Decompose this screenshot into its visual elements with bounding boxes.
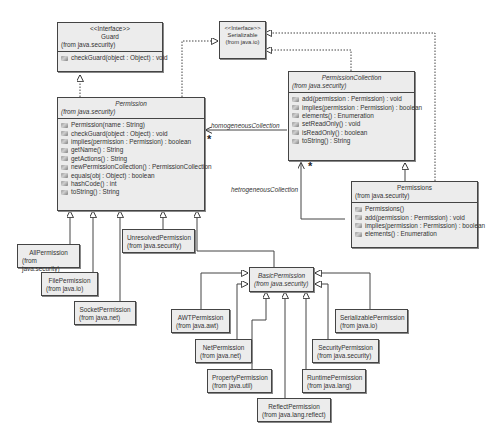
- stereotype: <<Interface>>: [222, 25, 263, 32]
- operation: toString() : String: [292, 137, 411, 145]
- operation: newPermissionCollection() : PermissionCo…: [61, 163, 201, 171]
- operation: Permissions(): [355, 205, 474, 213]
- package-label: (from java.io): [340, 322, 403, 330]
- operation: getName() : String: [61, 146, 201, 154]
- class-property-permission[interactable]: PropertyPermission (from java.util): [207, 369, 272, 393]
- operation: checkGuard(object : Object) : void: [61, 129, 201, 137]
- class-security-permission[interactable]: SecurityPermission (from java.security): [312, 339, 379, 363]
- method-icon: [292, 139, 299, 144]
- package-label: (from java.security): [292, 82, 411, 90]
- multiplicity-heterogeneous: *: [308, 160, 312, 172]
- class-reflect-permission[interactable]: ReflectPermission (from java.lang.reflec…: [257, 398, 331, 422]
- class-unresolved-permission[interactable]: UnresolvedPermission (from java.security…: [122, 229, 195, 253]
- class-name: BasicPermission: [254, 272, 309, 280]
- package-label: (from java.util): [212, 382, 267, 390]
- class-name: PermissionCollection: [292, 74, 411, 82]
- method-icon: [355, 232, 362, 237]
- method-icon: [61, 173, 68, 178]
- method-icon: [292, 105, 299, 110]
- class-name: UnresolvedPermission: [127, 234, 190, 242]
- method-icon: [61, 148, 68, 153]
- method-icon: [61, 181, 68, 186]
- package-label: (from java.security): [61, 108, 201, 116]
- class-name: FilePermission: [46, 277, 93, 285]
- method-icon: [292, 122, 299, 127]
- method-icon: [292, 113, 299, 118]
- operations-list: checkGuard(object : Object) : void: [58, 51, 162, 64]
- class-name: Serializable: [222, 32, 263, 39]
- operation: getActions() : String: [61, 155, 201, 163]
- method-icon: [61, 56, 68, 61]
- class-name: Permission: [61, 100, 201, 108]
- method-icon: [355, 215, 362, 220]
- class-permission-collection[interactable]: PermissionCollection (from java.security…: [288, 71, 415, 161]
- class-name: PropertyPermission: [212, 374, 267, 382]
- package-label: (from java.security): [22, 257, 75, 273]
- package-label: (from java.lang.reflect): [262, 411, 326, 419]
- class-name: RuntimePermission: [307, 374, 361, 382]
- multiplicity-homogeneous: *: [207, 133, 211, 145]
- realization-permission-serializable: [182, 41, 218, 97]
- generalization-serializablepermission: [315, 273, 370, 309]
- operation: setReadOnly() : void: [292, 120, 411, 128]
- method-icon: [292, 97, 299, 102]
- operations-list: Permission(name : String) checkGuard(obj…: [58, 118, 204, 199]
- realization-permcollection-serializable: [265, 50, 351, 71]
- class-basic-permission[interactable]: BasicPermission (from java.security): [249, 267, 314, 292]
- operation: elements() : Enumeration: [355, 230, 474, 238]
- operations-list: add(permission : Permission) : void impl…: [289, 92, 414, 147]
- method-icon: [355, 207, 362, 212]
- package-label: (from java.security): [317, 352, 374, 360]
- class-name: ReflectPermission: [262, 403, 326, 411]
- operation: hashCode() : int: [61, 180, 201, 188]
- association-label-heterogeneous: hetrogeneousCollection: [231, 186, 298, 193]
- operation: add(permission : Permission) : void: [355, 213, 474, 221]
- package-label: (from java.io): [46, 285, 93, 293]
- class-socket-permission[interactable]: SocketPermission (from java.net): [74, 301, 136, 325]
- package-label: (from java.lang): [307, 382, 361, 390]
- class-all-permission[interactable]: AllPermission (from java.security): [17, 244, 80, 268]
- operation: implies(permission : Permission) : boole…: [355, 222, 474, 230]
- method-icon: [61, 165, 68, 170]
- operation: toString() : String: [61, 188, 201, 196]
- method-icon: [61, 190, 68, 195]
- class-name: SerializablePermission: [340, 314, 403, 322]
- class-awt-permission[interactable]: AWTPermission (from java.awt): [171, 309, 230, 333]
- generalization-awtpermission: [201, 273, 248, 309]
- class-permission[interactable]: Permission (from java.security) Permissi…: [57, 97, 205, 211]
- class-serializable-permission[interactable]: SerializablePermission (from java.io): [335, 309, 408, 333]
- package-label: (from java.awt): [176, 322, 225, 330]
- package-label: (from java.io): [222, 39, 263, 46]
- class-name: SecurityPermission: [317, 344, 374, 352]
- class-name: Guard: [61, 33, 159, 41]
- operation: implies(permission : Permission) : boole…: [292, 103, 411, 111]
- class-file-permission[interactable]: FilePermission (from java.io): [41, 272, 98, 296]
- package-label: (from java.net): [200, 352, 247, 360]
- package-label: (from java.security): [61, 41, 159, 49]
- class-runtime-permission[interactable]: RuntimePermission (from java.lang): [302, 369, 366, 393]
- class-permissions[interactable]: Permissions (from java.security) Permiss…: [351, 181, 478, 248]
- operation: Permission(name : String): [61, 121, 201, 129]
- class-name: SocketPermission: [79, 306, 131, 314]
- generalization-basicpermission: [197, 211, 274, 267]
- generalization-netpermission: [237, 284, 248, 339]
- stereotype: <<Interface>>: [61, 25, 159, 33]
- class-name: AWTPermission: [176, 314, 225, 322]
- method-icon: [61, 139, 68, 144]
- generalization-propertypermission: [252, 292, 266, 369]
- class-name: Permissions: [355, 184, 474, 192]
- association-label-homogeneous: homogeneousCollection: [211, 122, 280, 129]
- class-serializable[interactable]: <<Interface>> Serializable (from java.io…: [219, 21, 266, 59]
- operation: checkGuard(object : Object) : void: [61, 54, 159, 62]
- package-label: (from java.security): [355, 192, 474, 200]
- package-label: (from java.security): [127, 242, 190, 250]
- operation: elements() : Enumeration: [292, 112, 411, 120]
- method-icon: [292, 130, 299, 135]
- class-net-permission[interactable]: NetPermission (from java.net): [195, 339, 252, 363]
- operation: add(permission : Permission) : void: [292, 95, 411, 103]
- class-guard[interactable]: <<Interface>> Guard (from java.security)…: [57, 22, 163, 72]
- package-label: (from java.net): [79, 314, 131, 322]
- method-icon: [61, 123, 68, 128]
- class-name: AllPermission: [22, 249, 75, 257]
- package-label: (from java.security): [254, 280, 309, 288]
